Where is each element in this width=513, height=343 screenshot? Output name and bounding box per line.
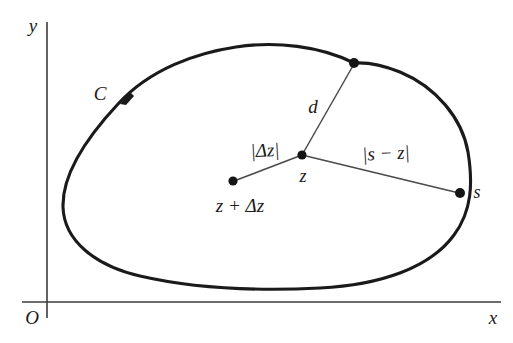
complex-plane-contour-figure: y x O C z z + Δz s d |Δz| |s − z| — [0, 0, 513, 343]
segment-label-delta-z: |Δz| — [250, 140, 280, 160]
contour-curve-c — [63, 45, 471, 290]
x-axis-label: x — [489, 308, 497, 327]
point-label-z: z — [299, 167, 306, 185]
point-dot-s — [455, 188, 465, 198]
origin-label: O — [25, 308, 39, 327]
point-dot-nearest-on-curve — [349, 58, 359, 68]
figure-canvas — [0, 0, 513, 343]
point-dot-z-plus-delta-z — [228, 176, 237, 185]
point-dot-z — [297, 150, 306, 159]
segment-label-s-minus-z: |s − z| — [362, 142, 410, 163]
segment-label-d: d — [308, 97, 318, 116]
contour-label-c: C — [94, 84, 107, 103]
point-label-s: s — [473, 183, 480, 201]
point-label-z-plus-delta-z: z + Δz — [216, 196, 264, 215]
y-axis-label: y — [29, 16, 37, 35]
